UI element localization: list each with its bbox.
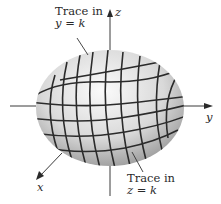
ellipsoid-diagram: Trace in y = k Trace in z = k z y x xyxy=(0,0,221,204)
leader-line-y-trace xyxy=(77,38,88,55)
annotation-y-trace: Trace in y = k xyxy=(55,5,103,29)
y-axis-label: y xyxy=(206,111,213,123)
x-axis-label: x xyxy=(37,181,44,193)
x-axis xyxy=(36,153,62,180)
annotation-equation: z = k xyxy=(127,184,175,196)
annotation-equation: y = k xyxy=(55,17,103,29)
diagram-canvas xyxy=(0,0,221,204)
annotation-z-trace: Trace in z = k xyxy=(127,172,175,196)
z-axis-label: z xyxy=(115,6,121,18)
